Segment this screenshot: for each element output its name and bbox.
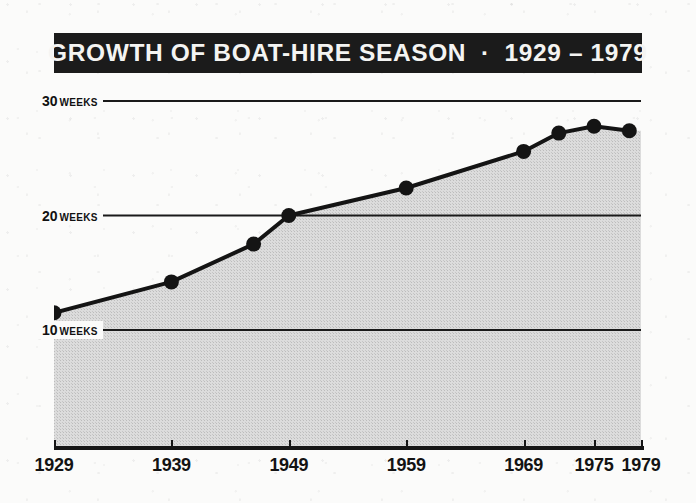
- data-point-marker: [246, 237, 261, 252]
- x-axis-tick-1979: [641, 440, 643, 450]
- y-tick-unit: WEEKS: [60, 97, 98, 108]
- data-point-marker: [399, 181, 414, 196]
- x-axis-label-1979: 1979: [622, 455, 661, 476]
- y-tick-value: 10: [42, 322, 58, 338]
- plot-area: 30WEEKS20WEEKS10WEEKS: [54, 90, 642, 448]
- data-point-marker: [622, 123, 637, 138]
- data-point-marker: [164, 274, 179, 289]
- y-axis-tick-30: 30WEEKS: [36, 92, 103, 110]
- y-axis-tick-20: 20WEEKS: [36, 207, 103, 225]
- x-axis-label-1969: 1969: [504, 455, 543, 476]
- y-tick-unit: WEEKS: [60, 326, 98, 337]
- y-axis-tick-10: 10WEEKS: [36, 321, 103, 339]
- x-axis-label-1939: 1939: [152, 455, 191, 476]
- x-axis-tick-1939: [171, 440, 173, 450]
- x-axis-tick-1975: [594, 440, 596, 450]
- area-fill: [54, 126, 641, 448]
- chart-page: GROWTH OF BOAT-HIRE SEASON · 1929 – 1979…: [0, 0, 696, 503]
- data-point-marker: [516, 144, 531, 159]
- data-point-marker: [587, 119, 602, 134]
- x-axis-tick-1949: [289, 440, 291, 450]
- line-chart-svg: [54, 90, 642, 448]
- y-tick-value: 30: [42, 93, 58, 109]
- x-axis-label-1929: 1929: [35, 455, 74, 476]
- x-axis-label-1949: 1949: [269, 455, 308, 476]
- chart-title-banner: GROWTH OF BOAT-HIRE SEASON · 1929 – 1979: [54, 33, 642, 73]
- x-axis-tick-1959: [406, 440, 408, 450]
- x-axis-tick-1969: [524, 440, 526, 450]
- y-tick-unit: WEEKS: [60, 212, 98, 223]
- x-axis-label-1975: 1975: [575, 455, 614, 476]
- data-point-marker: [551, 126, 566, 141]
- y-tick-value: 20: [42, 208, 58, 224]
- x-axis-label-1959: 1959: [387, 455, 426, 476]
- x-axis-line: [54, 446, 644, 450]
- data-point-marker: [281, 208, 296, 223]
- x-axis-tick-1929: [54, 440, 56, 450]
- page-title: GROWTH OF BOAT-HIRE SEASON · 1929 – 1979: [48, 39, 647, 67]
